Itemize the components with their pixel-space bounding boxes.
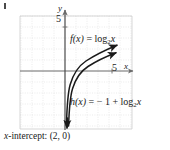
x-axis-tick-label-5: 5 [112,63,117,73]
function-label-h-arg: x [137,96,141,107]
x-axis-label: x [124,62,128,71]
function-label-f-name: f(x) [70,33,84,44]
caption-text: -intercept: (2, 0) [8,131,70,141]
function-label-f: f(x) = log2x [70,34,115,46]
function-label-h-name: h(x) [70,96,86,107]
function-label-f-equals: = log [84,33,107,44]
graph-canvas [0,0,170,150]
x-intercept-caption: x-intercept: (2, 0) [4,132,70,142]
function-label-f-arg: x [111,33,115,44]
function-label-h-equals: = [86,96,97,107]
y-axis-tick-label-5: 5 [56,14,61,24]
curve-downward-arrow [67,118,68,128]
function-label-h: h(x) = − 1 + log2x [70,97,141,109]
y-axis-label: y [58,4,62,13]
log-function-graph-figure: y 5 x 5 f(x) = log2x h(x) = − 1 + log2x … [0,0,170,150]
function-label-h-shift: − 1 + log [97,96,134,107]
